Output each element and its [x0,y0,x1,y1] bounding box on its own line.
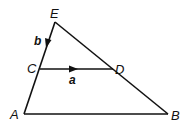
point-label-E: E [50,6,59,21]
vector-b-arrowhead-icon [45,38,52,48]
point-label-D: D [115,62,124,77]
vector-a-arrowhead-icon [69,66,78,73]
point-label-B: B [171,108,180,123]
point-label-C: C [27,61,37,76]
point-label-A: A [9,107,19,122]
vector-label-b: b [34,34,41,48]
vector-label-a: a [69,73,76,87]
triangle-diagram: E C D A B b a [0,0,183,131]
